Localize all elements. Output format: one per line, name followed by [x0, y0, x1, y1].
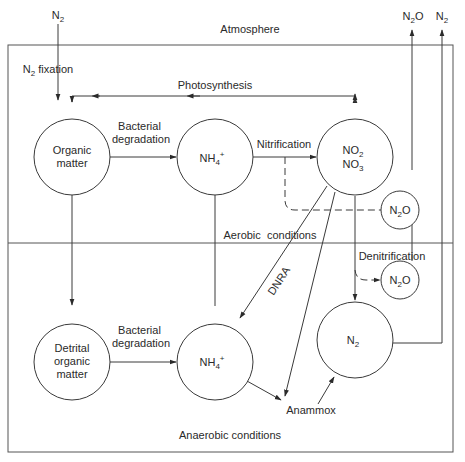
- svg-text:Detritalorganicmatter: Detritalorganicmatter: [54, 342, 91, 380]
- nitrogen-cycle-diagram: Atmosphere Aerobic conditions Anaerobic …: [0, 0, 465, 462]
- svg-text:Organicmatter: Organicmatter: [53, 144, 92, 169]
- anammox-label: Anammox: [286, 404, 336, 416]
- bacterial-degradation-bottom-label: Bacterial degradation: [112, 324, 170, 349]
- node-ammonium-aerobic: NH4+: [177, 119, 253, 195]
- bacterial-degradation-top-label: Bacterial degradation: [112, 120, 170, 145]
- n2-emission-label: N2: [436, 10, 449, 25]
- photosynthesis-label: Photosynthesis: [178, 79, 253, 91]
- denitrification-n2o-dashed-arrow: [355, 270, 380, 280]
- denitrification-label: Denitrification: [359, 250, 426, 262]
- n2o-emission-label: N2O: [403, 10, 424, 25]
- aerobic-label: Aerobic conditions: [224, 229, 317, 241]
- dnra-arrow: [240, 186, 327, 318]
- node-detrital-organic-matter: Detritalorganicmatter: [34, 324, 110, 400]
- node-nitrite-nitrate: NO2 NO3: [317, 119, 393, 195]
- node-n2o-upper: N2O: [381, 191, 419, 229]
- anammox-to-n2-arrow: [318, 377, 334, 404]
- n2-fixation-label: N2 fixation: [23, 63, 73, 78]
- photosynthesis-arrow: [72, 94, 355, 102]
- dnra-label: DNRA: [265, 264, 292, 297]
- svg-text:N2: N2: [52, 9, 65, 24]
- node-dinitrogen: N2: [317, 302, 393, 378]
- node-organic-matter: Organicmatter: [34, 119, 110, 195]
- nitrification-label: Nitrification: [257, 138, 311, 150]
- node-n2o-lower: N2O: [381, 261, 419, 299]
- atmosphere-label: Atmosphere: [220, 23, 279, 35]
- n2-atmospheric-input: N2: [52, 9, 65, 100]
- anaerobic-label: Anaerobic conditions: [179, 429, 282, 441]
- node-ammonium-anaerobic: NH4+: [177, 324, 253, 400]
